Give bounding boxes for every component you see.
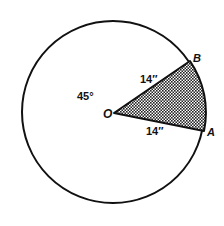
radius-ob-label: 14″	[140, 73, 158, 85]
point-b-label: B	[193, 52, 201, 64]
point-a-label: A	[206, 126, 215, 138]
angle-label: 45°	[77, 90, 94, 102]
radius-oa-label: 14″	[146, 125, 164, 137]
shaded-sector	[114, 61, 206, 131]
circle-sector-diagram: 14″ 14″ 45° O B A	[0, 0, 224, 226]
center-label-o: O	[103, 107, 113, 121]
